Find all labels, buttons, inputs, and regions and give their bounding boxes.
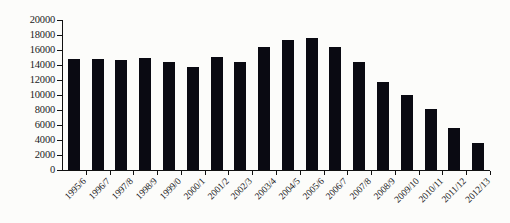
bar [187,67,199,170]
x-axis-tick [324,171,325,175]
y-axis-tick [57,80,62,81]
x-axis-tick [252,171,253,175]
x-axis-tick [490,171,491,175]
x-axis-tick [347,171,348,175]
y-axis-tick-label: 0 [0,165,55,175]
y-axis-tick [57,50,62,51]
x-axis-tick [442,171,443,175]
y-axis-tick-label: 18000 [0,30,55,40]
x-axis-tick [276,171,277,175]
y-axis-tick [57,20,62,21]
x-axis-tick [86,171,87,175]
y-axis-tick-label: 2000 [0,150,55,160]
y-axis-tick-label: 16000 [0,45,55,55]
bar-chart-screenshot: 0200040006000800010000120001400016000180… [0,0,510,223]
x-axis-tick [419,171,420,175]
x-axis-tick [371,171,372,175]
bar [282,40,294,171]
bar [306,38,318,170]
x-axis-tick [205,171,206,175]
y-axis-line [62,20,63,171]
bar [353,62,365,170]
x-axis-tick [466,171,467,175]
x-axis-tick [181,171,182,175]
y-axis-tick [57,35,62,36]
y-axis-tick-label: 4000 [0,135,55,145]
y-axis-tick-label: 6000 [0,120,55,130]
y-axis-tick-label: 14000 [0,60,55,70]
bar [68,59,80,170]
y-axis-tick [57,125,62,126]
x-axis-tick [110,171,111,175]
y-axis-tick [57,140,62,141]
y-axis-tick [57,170,62,171]
y-axis-tick-label: 20000 [0,15,55,25]
y-axis-tick [57,65,62,66]
bar [425,109,437,170]
y-axis-tick-label: 8000 [0,105,55,115]
y-axis-tick [57,110,62,111]
x-axis-tick [133,171,134,175]
bar [115,60,127,170]
bar [163,62,175,170]
bar [139,58,151,170]
bar [377,82,389,171]
x-axis-tick [228,171,229,175]
x-axis-tick [395,171,396,175]
y-axis-tick-label: 10000 [0,90,55,100]
bar [211,57,223,170]
x-axis-tick [157,171,158,175]
x-axis-tick [300,171,301,175]
bar [329,47,341,170]
chart-plot-area: 0200040006000800010000120001400016000180… [0,0,510,223]
bar [92,59,104,170]
bar [401,95,413,170]
bar [448,128,460,170]
y-axis-tick [57,95,62,96]
bar [234,62,246,170]
y-axis-tick [57,155,62,156]
y-axis-tick-label: 12000 [0,75,55,85]
bar [258,47,270,170]
bar [472,143,484,170]
